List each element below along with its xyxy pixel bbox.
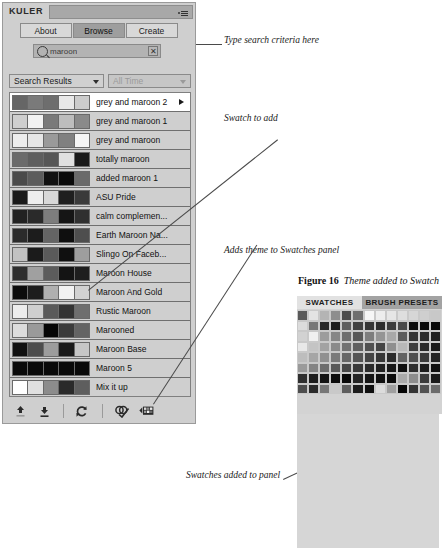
swatch-cell[interactable] bbox=[430, 384, 441, 395]
theme-swatch-strip[interactable] bbox=[12, 228, 90, 243]
swatch-cell[interactable] bbox=[419, 363, 430, 374]
swatch-cell[interactable] bbox=[352, 384, 363, 395]
theme-swatch[interactable] bbox=[44, 248, 59, 261]
theme-swatch-strip[interactable] bbox=[12, 209, 90, 224]
theme-swatch[interactable] bbox=[75, 267, 89, 280]
theme-swatch[interactable] bbox=[44, 343, 59, 356]
theme-swatch[interactable] bbox=[28, 96, 43, 109]
theme-swatch[interactable] bbox=[59, 286, 74, 299]
swatch-cell[interactable] bbox=[319, 342, 330, 353]
swatch-cell[interactable] bbox=[308, 331, 319, 342]
swatch-cell[interactable] bbox=[330, 321, 341, 332]
swatch-cell[interactable] bbox=[397, 310, 408, 321]
swatch-cell[interactable] bbox=[352, 321, 363, 332]
theme-swatch[interactable] bbox=[28, 248, 43, 261]
theme-swatch[interactable] bbox=[44, 210, 59, 223]
swatch-cell[interactable] bbox=[386, 310, 397, 321]
swatch-cell[interactable] bbox=[408, 310, 419, 321]
swatch-cell[interactable] bbox=[297, 310, 308, 321]
swatch-cell[interactable] bbox=[364, 331, 375, 342]
theme-swatch[interactable] bbox=[75, 229, 89, 242]
theme-swatch[interactable] bbox=[44, 191, 59, 204]
swatch-cell[interactable] bbox=[375, 321, 386, 332]
theme-swatch[interactable] bbox=[44, 324, 59, 337]
swatch-cell[interactable] bbox=[341, 373, 352, 384]
theme-swatch[interactable] bbox=[59, 305, 74, 318]
theme-swatch[interactable] bbox=[44, 115, 59, 128]
theme-swatch-strip[interactable] bbox=[12, 152, 90, 167]
theme-swatch[interactable] bbox=[75, 324, 89, 337]
swatch-cell[interactable] bbox=[397, 373, 408, 384]
swatch-cell[interactable] bbox=[308, 363, 319, 374]
theme-row[interactable]: ASU Pride bbox=[10, 188, 190, 207]
theme-swatch-strip[interactable] bbox=[12, 342, 90, 357]
theme-swatch[interactable] bbox=[59, 115, 74, 128]
swatch-cell[interactable] bbox=[375, 342, 386, 353]
swatch-cell[interactable] bbox=[352, 352, 363, 363]
theme-swatch[interactable] bbox=[44, 134, 59, 147]
swatch-cell[interactable] bbox=[397, 384, 408, 395]
swatch-cell[interactable] bbox=[375, 363, 386, 374]
theme-swatch-strip[interactable] bbox=[12, 285, 90, 300]
theme-swatch-strip[interactable] bbox=[12, 95, 90, 110]
theme-swatch[interactable] bbox=[44, 305, 59, 318]
theme-swatch[interactable] bbox=[44, 172, 59, 185]
swatch-cell[interactable] bbox=[330, 363, 341, 374]
edit-theme-icon[interactable] bbox=[111, 403, 133, 419]
swatch-cell[interactable] bbox=[341, 331, 352, 342]
theme-swatch[interactable] bbox=[28, 210, 43, 223]
swatch-cell[interactable] bbox=[319, 373, 330, 384]
theme-swatch[interactable] bbox=[75, 381, 89, 394]
theme-row[interactable]: Maroon Base bbox=[10, 340, 190, 359]
swatch-cell[interactable] bbox=[319, 331, 330, 342]
swatch-cell[interactable] bbox=[397, 363, 408, 374]
theme-swatch[interactable] bbox=[75, 134, 89, 147]
theme-swatch-strip[interactable] bbox=[12, 323, 90, 338]
swatch-cell[interactable] bbox=[330, 352, 341, 363]
swatch-cell[interactable] bbox=[419, 373, 430, 384]
swatch-cell[interactable] bbox=[430, 331, 441, 342]
theme-swatch[interactable] bbox=[44, 381, 59, 394]
theme-swatch[interactable] bbox=[75, 115, 89, 128]
swatch-cell[interactable] bbox=[308, 373, 319, 384]
theme-swatch-strip[interactable] bbox=[12, 380, 90, 395]
swatch-cell[interactable] bbox=[319, 310, 330, 321]
swatch-cell[interactable] bbox=[408, 352, 419, 363]
theme-swatch-strip[interactable] bbox=[12, 304, 90, 319]
theme-row[interactable]: grey and maroon bbox=[10, 131, 190, 150]
tab-brush-presets[interactable]: BRUSH PRESETS bbox=[362, 296, 442, 309]
swatch-cell[interactable] bbox=[430, 363, 441, 374]
theme-swatch[interactable] bbox=[13, 381, 28, 394]
swatch-cell[interactable] bbox=[375, 373, 386, 384]
theme-swatch[interactable] bbox=[59, 343, 74, 356]
swatch-cell[interactable] bbox=[386, 321, 397, 332]
theme-row[interactable]: Slingo On Faceb... bbox=[10, 245, 190, 264]
swatch-cell[interactable] bbox=[319, 352, 330, 363]
swatch-cell[interactable] bbox=[430, 342, 441, 353]
theme-row[interactable]: Marooned bbox=[10, 321, 190, 340]
swatch-cell[interactable] bbox=[341, 342, 352, 353]
theme-swatch[interactable] bbox=[28, 153, 43, 166]
theme-swatch[interactable] bbox=[44, 229, 59, 242]
swatch-cell[interactable] bbox=[430, 321, 441, 332]
add-to-swatches-icon[interactable] bbox=[135, 403, 157, 419]
theme-swatch[interactable] bbox=[13, 343, 28, 356]
theme-list[interactable]: grey and maroon 2grey and maroon 1grey a… bbox=[9, 92, 191, 397]
theme-swatch[interactable] bbox=[28, 115, 43, 128]
swatch-cell[interactable] bbox=[364, 321, 375, 332]
swatch-cell[interactable] bbox=[297, 384, 308, 395]
swatch-cell[interactable] bbox=[352, 310, 363, 321]
swatch-cell[interactable] bbox=[352, 342, 363, 353]
theme-swatch[interactable] bbox=[28, 324, 43, 337]
swatch-cell[interactable] bbox=[308, 310, 319, 321]
filter-select-time[interactable]: All Time bbox=[108, 74, 191, 88]
theme-row[interactable]: grey and maroon 1 bbox=[10, 112, 190, 131]
search-field[interactable]: maroon ✕ bbox=[33, 44, 161, 58]
swatch-cell[interactable] bbox=[375, 384, 386, 395]
swatch-cell[interactable] bbox=[330, 373, 341, 384]
theme-swatch[interactable] bbox=[44, 267, 59, 280]
theme-swatch[interactable] bbox=[75, 153, 89, 166]
swatch-cell[interactable] bbox=[397, 352, 408, 363]
swatch-cell[interactable] bbox=[330, 342, 341, 353]
swatch-cell[interactable] bbox=[308, 384, 319, 395]
